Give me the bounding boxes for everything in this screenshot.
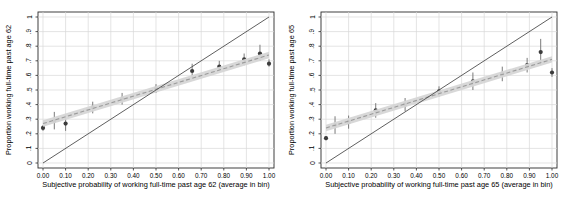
x-axis-title: Subjective probability of working full-t… xyxy=(42,180,270,189)
chart-age-65: 0.000.100.200.300.400.500.600.700.800.90… xyxy=(283,0,566,206)
x-tick-label: 0.10 xyxy=(342,172,355,179)
y-tick-label: .4 xyxy=(309,101,316,107)
y-tick-label: .9 xyxy=(26,28,33,34)
x-tick-label: 0.40 xyxy=(127,172,140,179)
x-tick-label: 1.00 xyxy=(546,172,559,179)
data-point xyxy=(550,70,554,74)
y-axis-title: Proportion working full-time past age 65 xyxy=(287,25,296,155)
y-axis-title: Proportion working full-time past age 62 xyxy=(4,25,13,155)
x-axis-title: Subjective probability of working full-t… xyxy=(325,180,553,189)
x-tick-label: 0.70 xyxy=(478,172,491,179)
y-tick-label: 1 xyxy=(309,15,316,19)
data-point xyxy=(64,121,68,125)
x-tick-label: 0.20 xyxy=(365,172,378,179)
y-tick-label: .2 xyxy=(309,131,316,137)
y-tick-label: .5 xyxy=(26,87,33,93)
x-tick-label: 0.80 xyxy=(218,172,231,179)
y-tick-label: .7 xyxy=(309,58,316,64)
data-point xyxy=(324,136,328,140)
data-point xyxy=(267,62,271,66)
y-tick-label: .8 xyxy=(26,43,33,49)
x-tick-label: 0.30 xyxy=(105,172,118,179)
y-tick-label: 1 xyxy=(26,15,33,19)
data-point xyxy=(539,50,543,54)
y-tick-label: .6 xyxy=(309,72,316,78)
x-tick-label: 0.90 xyxy=(240,172,253,179)
x-tick-label: 0.40 xyxy=(410,172,423,179)
x-tick-label: 0.00 xyxy=(37,172,50,179)
x-tick-label: 0.60 xyxy=(455,172,468,179)
y-tick-label: 0 xyxy=(26,161,33,165)
panel-age-62: 0.000.100.200.300.400.500.600.700.800.90… xyxy=(0,0,283,206)
panel-age-65: 0.000.100.200.300.400.500.600.700.800.90… xyxy=(283,0,566,206)
y-tick-label: .2 xyxy=(26,131,33,137)
y-tick-label: .1 xyxy=(26,145,33,151)
x-tick-label: 0.70 xyxy=(195,172,208,179)
y-tick-label: .6 xyxy=(26,72,33,78)
x-tick-label: 0.60 xyxy=(172,172,185,179)
chart-age-62: 0.000.100.200.300.400.500.600.700.800.90… xyxy=(0,0,283,206)
y-tick-label: .5 xyxy=(309,87,316,93)
x-tick-label: 0.80 xyxy=(501,172,514,179)
x-tick-label: 1.00 xyxy=(263,172,276,179)
y-tick-label: .1 xyxy=(309,145,316,151)
y-tick-label: .3 xyxy=(26,116,33,122)
y-tick-label: .7 xyxy=(26,58,33,64)
y-tick-label: .4 xyxy=(26,101,33,107)
x-tick-label: 0.50 xyxy=(433,172,446,179)
x-tick-label: 0.90 xyxy=(523,172,536,179)
x-tick-label: 0.20 xyxy=(82,172,95,179)
y-tick-label: .9 xyxy=(309,28,316,34)
x-tick-label: 0.50 xyxy=(150,172,163,179)
y-tick-label: .3 xyxy=(309,116,316,122)
y-tick-label: .8 xyxy=(309,43,316,49)
y-tick-label: 0 xyxy=(309,161,316,165)
x-tick-label: 0.30 xyxy=(388,172,401,179)
data-point xyxy=(190,69,194,73)
x-tick-label: 0.00 xyxy=(320,172,333,179)
two-panel-binned-scatter-figure: 0.000.100.200.300.400.500.600.700.800.90… xyxy=(0,0,566,206)
x-tick-label: 0.10 xyxy=(59,172,72,179)
